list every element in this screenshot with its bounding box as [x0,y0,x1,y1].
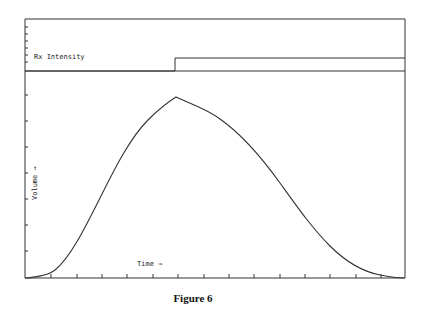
y-axis-label: Volume → [31,166,39,200]
x-axis-label: Time → [137,260,162,268]
volume-curve [25,97,405,278]
rx-intensity-panel: Rx Intensity [25,19,405,278]
rx-intensity-label: Rx Intensity [34,53,85,61]
volume-panel: Volume → Time → [25,95,405,278]
figure-6-chart: Rx Intensity [0,0,424,317]
x-axis-ticks [51,274,381,278]
figure-caption: Figure 6 [173,292,213,304]
